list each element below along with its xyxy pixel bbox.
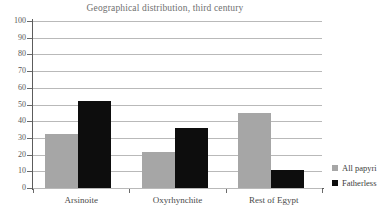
y-axis-tick-mark	[27, 171, 32, 172]
x-axis-tick-mark	[129, 189, 130, 193]
x-axis-tick-mark	[33, 189, 34, 193]
y-axis-tick-mark	[27, 155, 32, 156]
y-axis-tick-mark	[27, 105, 32, 106]
y-axis-tick-mark	[27, 121, 32, 122]
x-axis-category-label: Arsinoite	[33, 195, 129, 205]
y-axis-tick-mark	[27, 21, 32, 22]
gridline	[33, 188, 322, 189]
y-axis-tick-label: 0	[2, 184, 26, 192]
y-axis-tick-mark	[27, 71, 32, 72]
chart-screenshot: Geographical distribution, third century…	[0, 0, 389, 217]
bar	[175, 128, 208, 188]
plot-area	[33, 21, 322, 188]
x-axis-tick-mark	[226, 189, 227, 193]
legend-item[interactable]: All papyri	[332, 160, 389, 175]
y-axis-tick-label: 60	[2, 84, 26, 92]
y-axis-tick-label: 100	[2, 17, 26, 25]
gridline	[33, 88, 322, 89]
y-axis-tick-mark	[27, 88, 32, 89]
y-axis-tick-label: 80	[2, 50, 26, 58]
legend-color-swatch	[332, 180, 338, 186]
gridline	[33, 54, 322, 55]
chart-title: Geographical distribution, third century	[0, 3, 330, 13]
y-axis-tick-label: 50	[2, 101, 26, 109]
x-axis-category-label: Rest of Egypt	[226, 195, 322, 205]
y-axis-tick-mark	[27, 188, 32, 189]
chart-legend: All papyriFatherless	[332, 160, 389, 190]
y-axis-tick-mark	[27, 38, 32, 39]
legend-series-label: All papyri	[342, 163, 377, 173]
x-axis-category-label: Oxyrhynchite	[129, 195, 225, 205]
y-axis-tick-label: 70	[2, 67, 26, 75]
bar	[238, 113, 271, 188]
y-axis-tick-label: 90	[2, 34, 26, 42]
bar	[271, 170, 304, 188]
legend-color-swatch	[332, 165, 338, 171]
y-axis-tick-label: 40	[2, 117, 26, 125]
gridline	[33, 71, 322, 72]
x-axis-tick-mark	[322, 189, 323, 193]
legend-item[interactable]: Fatherless	[332, 175, 389, 190]
legend-series-label: Fatherless	[342, 178, 376, 188]
gridline	[33, 38, 322, 39]
gridline	[33, 121, 322, 122]
y-axis-tick-label: 30	[2, 134, 26, 142]
y-axis-tick-mark	[27, 138, 32, 139]
bar	[78, 101, 111, 188]
bar	[142, 152, 175, 188]
gridline	[33, 105, 322, 106]
y-axis-tick-labels: 1009080706050403020100	[0, 0, 26, 217]
y-axis-tick-label: 10	[2, 167, 26, 175]
gridline	[33, 21, 322, 22]
y-axis-tick-mark	[27, 54, 32, 55]
y-axis-tick-label: 20	[2, 151, 26, 159]
bar	[45, 134, 78, 188]
